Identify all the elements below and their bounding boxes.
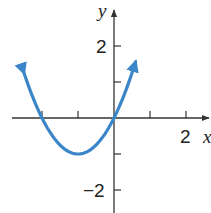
y-tick-label-2: 2 [96,36,107,57]
x-tick-label-2: 2 [180,126,191,147]
parabola-graph: y x 2 2 −2 [0,0,211,213]
x-axis-label: x [202,126,211,147]
y-tick-label-neg2: −2 [83,180,105,201]
y-axis-label: y [96,0,107,21]
parabola-curve [24,62,136,154]
